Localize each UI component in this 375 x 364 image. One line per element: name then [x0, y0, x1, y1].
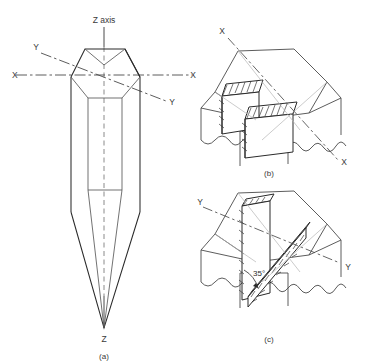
- label-panel-c-y-upper-left: Y: [197, 197, 203, 207]
- label-x-left: X: [12, 70, 18, 80]
- label-panel-b-x-upper-left: X: [219, 26, 225, 36]
- label-z-axis-bottom: Z: [101, 334, 106, 344]
- caption-panel-c: (c): [264, 335, 274, 344]
- crystallography-figure: X X Y Y Z axis Z (a): [0, 0, 375, 364]
- label-panel-b-x-lower-right: X: [341, 157, 347, 167]
- label-z-axis-top: Z axis: [93, 15, 116, 25]
- label-angle-35: 35°: [253, 269, 265, 278]
- label-panel-c-y-lower-right: Y: [345, 262, 351, 272]
- caption-panel-b: (b): [264, 169, 274, 178]
- label-y-upper-left: Y: [33, 42, 39, 52]
- plate-b-front-face: [245, 114, 293, 158]
- label-x-right: X: [190, 70, 196, 80]
- figure-background: [0, 0, 375, 364]
- label-y-lower-right: Y: [169, 97, 175, 107]
- caption-panel-a: (a): [99, 352, 109, 361]
